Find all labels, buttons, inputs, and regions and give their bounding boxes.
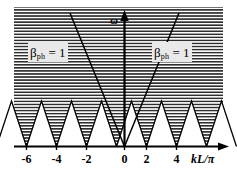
- stopband-hatched-region: [14, 7, 223, 147]
- x-tick-label-minus2: -2: [76, 153, 97, 165]
- x-tick-label-2: 2: [136, 153, 157, 165]
- x-tick-label-0: 0: [114, 153, 135, 165]
- beta-symbol-right: β: [154, 45, 161, 60]
- omega-axis-label: ω: [110, 15, 118, 26]
- brillouin-diagram-figure: ω βph = 1 βph = 1 -6 -4 -2 0 2 4 kL/π: [0, 0, 237, 175]
- right-light-line-annotation: βph = 1: [152, 42, 192, 62]
- beta-subscript-left: ph: [37, 52, 46, 61]
- x-tick-label-4: 4: [166, 153, 187, 165]
- left-light-line-annotation: βph = 1: [28, 42, 68, 62]
- beta-symbol-left: β: [30, 45, 37, 60]
- x-tick-label-minus4: -4: [46, 153, 67, 165]
- dispersion-plot-svg: [0, 0, 237, 175]
- x-tick-label-minus6: -6: [16, 153, 37, 165]
- beta-subscript-right: ph: [161, 52, 170, 61]
- beta-equals-right: = 1: [169, 45, 189, 60]
- x-axis-label: kL/π: [191, 153, 214, 165]
- x-axis-arrowhead: [218, 143, 229, 151]
- beta-equals-left: = 1: [45, 45, 65, 60]
